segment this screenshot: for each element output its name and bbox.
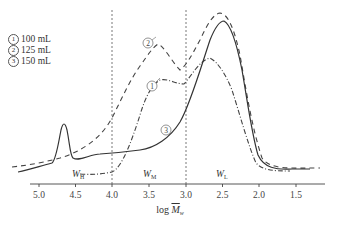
tick-label: 5.0 — [33, 190, 45, 200]
tick-label: 3.5 — [143, 190, 155, 200]
svg-text:3: 3 — [164, 126, 168, 135]
x-axis-label: log Mw — [156, 204, 184, 216]
tick-label: 1.5 — [290, 190, 302, 200]
svg-text:1: 1 — [150, 82, 154, 91]
region-label-wm: WM — [143, 169, 157, 180]
curve-marker-3: 3 — [161, 125, 171, 135]
curve-marker-2: 2 — [143, 37, 156, 48]
tick-label: 4.5 — [70, 190, 82, 200]
curve-marker-1: 1 — [147, 78, 160, 91]
tick-label: 3.0 — [180, 190, 192, 200]
tick-label: 2.5 — [217, 190, 229, 200]
svg-text:2: 2 — [146, 39, 150, 48]
region-label-wl: WL — [216, 169, 228, 180]
chart-canvas: 5.0 4.5 4.0 3.5 3.0 2.5 2.0 1.5 log Mw W… — [0, 0, 340, 228]
x-tick-labels: 5.0 4.5 4.0 3.5 3.0 2.5 2.0 1.5 — [33, 190, 302, 200]
tick-label: 2.0 — [253, 190, 265, 200]
tick-label: 4.0 — [106, 190, 118, 200]
series-150ml — [18, 21, 310, 172]
